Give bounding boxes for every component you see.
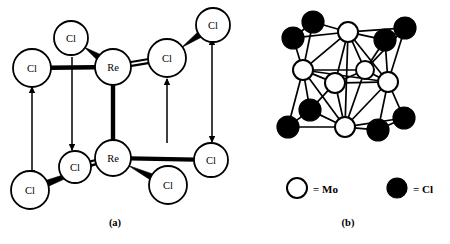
atom-mo-b8	[356, 61, 374, 79]
legend-label-mo: = Mo	[313, 183, 338, 195]
atom-cl-a1: Cl	[54, 21, 88, 55]
legend-swatch-cl	[387, 178, 407, 198]
atom-cl-a5: Cl	[196, 8, 230, 42]
atom-cl-b2	[282, 27, 304, 49]
figure-root: ClClReClClReClClClCl = Mo= Cl (a)(b)	[0, 0, 450, 244]
cluster-bond	[357, 34, 375, 38]
atom-mo-b1	[302, 11, 324, 33]
caption-panel-a: (a)	[109, 217, 122, 229]
cluster-bond	[323, 25, 340, 30]
atom-cl-a7: Cl	[59, 151, 91, 183]
atom-cl-a10: Cl	[194, 143, 228, 177]
atom-re-a6: Re	[95, 140, 131, 176]
chemistry-structure-figure: ClClReClClReClClClCl = Mo= Cl (a)(b)	[0, 0, 450, 244]
cluster-bond	[305, 79, 309, 100]
caption-layer: (a)(b)	[109, 217, 355, 229]
atom-cl-a8: Cl	[11, 171, 49, 209]
cluster-bond	[345, 41, 347, 118]
cluster-bond	[351, 89, 382, 121]
cluster-bond	[354, 128, 368, 129]
atom-mo-b12	[335, 117, 355, 137]
atom-mo-b6	[293, 60, 313, 80]
legend-swatch-mo	[287, 178, 307, 198]
atom-cl-b11	[277, 116, 299, 138]
atom-cl-b13	[367, 119, 389, 141]
cluster-bond	[310, 38, 341, 64]
atom-cl-a9: Cl	[149, 166, 187, 204]
cluster-bond	[296, 48, 300, 62]
legend-label-cl: = Cl	[413, 183, 433, 195]
cluster-bond	[303, 33, 339, 37]
cluster-bond	[386, 50, 388, 73]
atom-mo-b9	[378, 72, 398, 92]
atom-cl-a2: Cl	[13, 49, 51, 87]
panel-b	[277, 11, 416, 141]
bond-cl-re	[50, 67, 96, 68]
cluster-bond	[380, 91, 386, 120]
cluster-bond	[337, 92, 343, 118]
atom-mo-b3	[338, 22, 358, 42]
panel-a: ClClReClClReClClClCl	[11, 8, 230, 209]
cluster-bond	[392, 90, 400, 109]
atom-cl-b4	[374, 29, 396, 51]
atom-cl-b5	[394, 17, 416, 39]
bond-re-cl	[129, 59, 149, 66]
cluster-bond	[319, 114, 337, 123]
bond-re-cl	[130, 158, 195, 159]
atom-cl-a4: Cl	[148, 39, 186, 77]
atom-cl-b14	[393, 107, 415, 129]
atom-mo-b7	[325, 73, 345, 93]
caption-panel-b: (b)	[342, 217, 355, 229]
legend: = Mo= Cl	[287, 178, 433, 198]
cluster-bond	[311, 73, 326, 79]
atom-cl-b10	[299, 99, 321, 121]
atom-re-a3: Re	[95, 49, 131, 85]
cluster-bond	[348, 78, 362, 119]
